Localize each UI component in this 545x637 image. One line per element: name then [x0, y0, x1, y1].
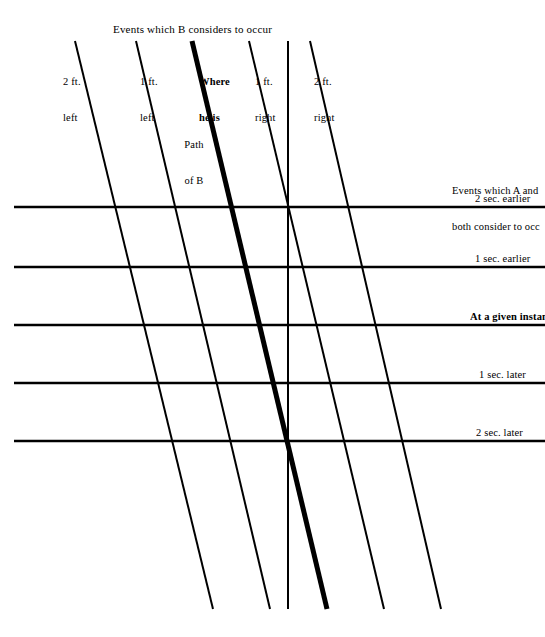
worldline-label-2-ft-right-line1: 2 ft. [314, 76, 335, 88]
worldline-label-2-ft-left: 2 ft. left [63, 52, 81, 148]
right-note: Events which A and both consider to occ [452, 161, 545, 257]
path-of-b-label: Path of B [176, 115, 212, 211]
path-of-b-label-line1: Path [176, 139, 212, 151]
spacetime-diagram: Events which B considers to occur 2 ft. … [0, 0, 545, 637]
time-label-1-sec-later: 1 sec. later [479, 369, 545, 381]
path-of-b-label-line2: of B [176, 175, 212, 187]
worldline-label-2-ft-left-line1: 2 ft. [63, 76, 81, 88]
worldline-label-2-ft-right-line2: right [314, 112, 335, 124]
worldline-label-1-ft-left-line2: left [140, 112, 158, 124]
worldline-label-1-ft-left-line1: 1 ft. [140, 76, 158, 88]
worldline-label-1-ft-right: 1 ft. right [255, 52, 276, 148]
time-label-at-a-given-instant: At a given instan [470, 311, 545, 323]
worldline-label-1-ft-left: 1 ft. left [140, 52, 158, 148]
time-label-2-sec-later: 2 sec. later [476, 427, 545, 439]
right-note-line2: both consider to occ [452, 221, 545, 233]
worldline-label-where-he-is-line1: Where [199, 76, 230, 88]
time-label-2-sec-earlier: 2 sec. earlier [475, 193, 545, 205]
worldline-label-1-ft-right-line2: right [255, 112, 276, 124]
worldline-label-1-ft-right-line1: 1 ft. [255, 76, 276, 88]
time-label-1-sec-earlier: 1 sec. earlier [475, 253, 545, 265]
worldline-label-2-ft-right: 2 ft. right [314, 52, 335, 148]
worldline-label-2-ft-left-line2: left [63, 112, 81, 124]
diagram-title: Events which B considers to occur [113, 23, 272, 35]
